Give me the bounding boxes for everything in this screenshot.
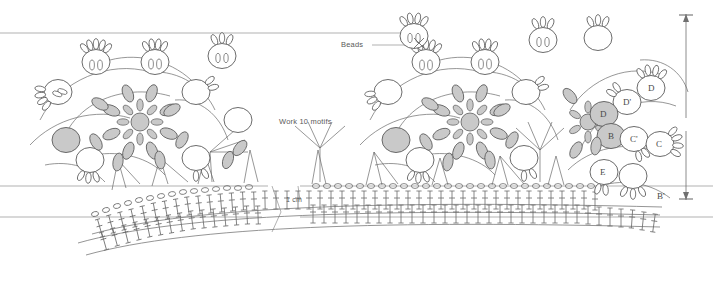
pattern-diagram-canvas: D D' D B C' C E B' Beads Work 10 motifs … [0, 0, 713, 293]
point-label-b-prime: B' [657, 191, 665, 201]
point-label-e: E [600, 167, 606, 177]
point-label-d-upper: D [648, 83, 655, 93]
beads-annotation: Beads [341, 40, 363, 49]
work-motifs-annotation: Work 10 motifs [279, 117, 332, 126]
point-label-b-inner: B [608, 131, 614, 141]
point-label-c-outer: C [656, 139, 662, 149]
motif-cluster-far-right [560, 60, 688, 200]
dimension-line-lower [679, 131, 693, 200]
dimension-line-upper [679, 14, 693, 118]
scale-annotation: 1 cm [286, 196, 302, 203]
point-label-d-inner: D [600, 109, 607, 119]
point-label-c-prime: C' [630, 134, 638, 144]
point-label-d-prime: D' [623, 97, 631, 107]
motif-cluster-left [30, 33, 252, 184]
